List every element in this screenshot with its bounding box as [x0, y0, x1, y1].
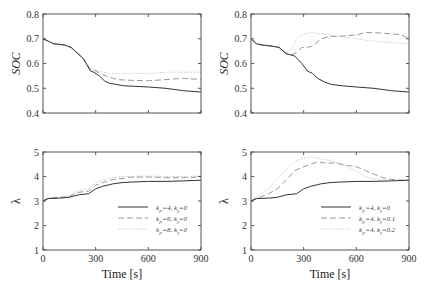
x-tick-label: 300 — [88, 253, 103, 264]
figure: 0.40.50.60.70.8SOC 0.40.50.60.70.8SOC 12… — [0, 0, 424, 290]
y-tick-label: 0.7 — [235, 33, 248, 44]
x-axis-label: Time [s] — [310, 267, 351, 281]
y-axis-label: λ — [9, 198, 23, 204]
panel-bottom-right-lambda: 123450300600900λTime [s]kP=4, kI=0kP=4, … — [217, 147, 417, 282]
y-tick-label: 0.7 — [27, 33, 40, 44]
y-tick-label: 0.6 — [27, 58, 40, 69]
x-tick-label: 900 — [402, 253, 417, 264]
y-tick-label: 2 — [242, 220, 247, 231]
x-tick-label: 0 — [249, 253, 254, 264]
series-line-solid — [43, 180, 201, 201]
legend: kP=4, kI=0kP=6, kI=0kP=8, kI=0 — [118, 204, 187, 236]
series-line-dotted — [251, 157, 409, 201]
y-tick-label: 4 — [34, 171, 39, 182]
y-axis-label: λ — [217, 198, 231, 204]
y-tick-label: 3 — [34, 196, 39, 207]
legend-entry: kP=4, kI=0 — [359, 204, 390, 214]
panel-top-left-soc: 0.40.50.60.70.8SOC — [9, 9, 201, 119]
panel-bottom-left-lambda: 123450300600900λTime [s]kP=4, kI=0kP=6, … — [9, 147, 209, 282]
y-tick-label: 0.8 — [27, 9, 40, 20]
y-axis-label: SOC — [217, 51, 231, 75]
series-line-solid — [251, 39, 409, 92]
axes-frame — [43, 14, 201, 113]
legend-entry: kP=4, kI=0 — [156, 204, 187, 214]
axes-frame — [43, 152, 201, 250]
legend-entry: kP=6, kI=0 — [156, 215, 187, 225]
y-tick-label: 0.5 — [235, 83, 248, 94]
x-tick-label: 600 — [141, 253, 156, 264]
x-tick-label: 300 — [296, 253, 311, 264]
legend: kP=4, kI=0kP=4, kI=0.1kP=4, kI=0.2 — [321, 204, 396, 236]
y-tick-label: 0.4 — [27, 108, 40, 119]
series-line-dotted — [43, 39, 201, 74]
y-tick-label: 5 — [242, 147, 247, 158]
x-tick-label: 0 — [41, 253, 46, 264]
x-tick-label: 600 — [349, 253, 364, 264]
y-tick-label: 3 — [242, 196, 247, 207]
y-tick-label: 2 — [34, 220, 39, 231]
y-tick-label: 5 — [34, 147, 39, 158]
y-tick-label: 4 — [242, 171, 247, 182]
x-axis-label: Time [s] — [102, 267, 143, 281]
y-axis-label: SOC — [9, 51, 23, 75]
y-tick-label: 0.6 — [235, 58, 248, 69]
y-tick-label: 0.4 — [235, 108, 248, 119]
series-line-dotted — [251, 33, 409, 53]
axes-frame — [251, 152, 409, 250]
y-tick-label: 1 — [34, 245, 39, 256]
legend-entry: kP=4, kI=0.1 — [359, 215, 395, 225]
y-tick-label: 0.5 — [27, 83, 40, 94]
x-tick-label: 900 — [194, 253, 209, 264]
legend-entry: kP=4, kI=0.2 — [359, 226, 396, 236]
series-line-solid — [251, 180, 409, 201]
axes-frame — [251, 14, 409, 113]
panel-top-right-soc: 0.40.50.60.70.8SOC — [217, 9, 409, 119]
y-tick-label: 1 — [242, 245, 247, 256]
y-tick-label: 0.8 — [235, 9, 248, 20]
series-line-dashed — [251, 33, 409, 55]
legend-entry: kP=8, kI=0 — [156, 226, 187, 236]
series-line-solid — [43, 39, 201, 92]
series-line-dashed — [43, 39, 201, 81]
